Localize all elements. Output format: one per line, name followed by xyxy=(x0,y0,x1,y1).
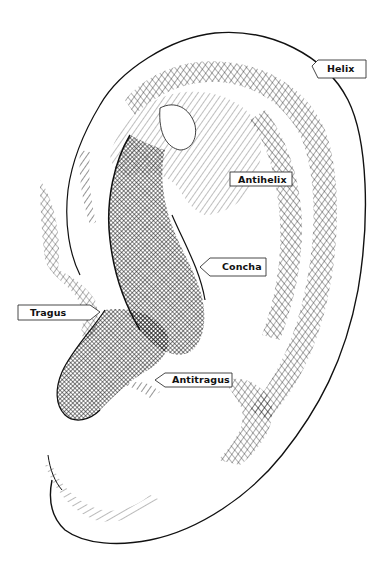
ear-illustration xyxy=(0,0,384,562)
antihelix-label: Antihelix xyxy=(238,175,287,185)
tragus-label: Tragus xyxy=(30,308,66,318)
antitragus-label: Antitragus xyxy=(172,375,230,385)
helix-label: Helix xyxy=(327,64,355,74)
antitragus-shading xyxy=(57,309,168,420)
concha-label: Concha xyxy=(222,262,262,272)
